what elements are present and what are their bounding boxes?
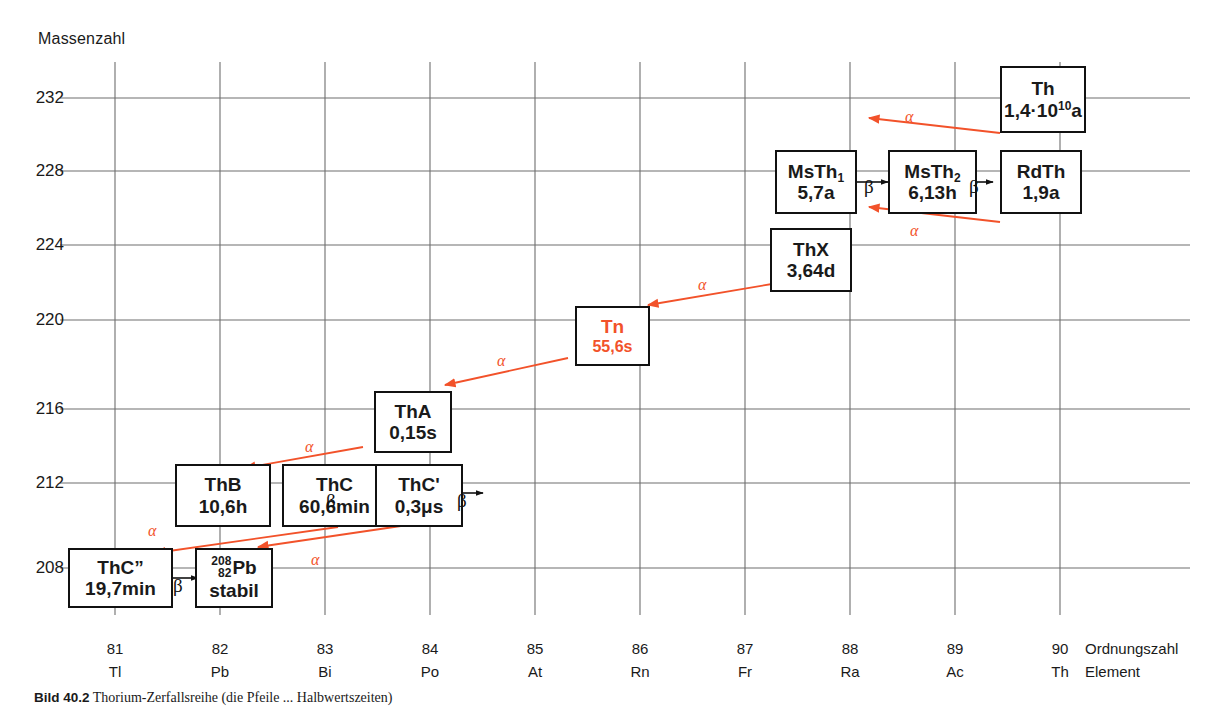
nuclide-halflife-thc-double-prime: 19,7min <box>85 578 156 599</box>
x-tick-element-at: At <box>505 663 565 680</box>
x-tick-element-fr: Fr <box>715 663 775 680</box>
x-tick-element-ra: Ra <box>820 663 880 680</box>
nuclide-halflife-tn: 55,6s <box>592 338 632 356</box>
nuclide-halflife-msth1: 5,7a <box>798 182 835 203</box>
y-tick-232: 232 <box>18 88 64 108</box>
figure-caption: Bild 40.2 Thorium-Zerfallsreihe (die Pfe… <box>34 690 393 706</box>
nuclide-name-thb: ThB <box>205 474 242 495</box>
nuclide-halflife-thb: 10,6h <box>199 496 248 517</box>
x-tick-element-th: Th <box>1030 663 1090 680</box>
nuclide-name-msth1: MsTh1 <box>788 161 844 182</box>
nuclide-name-thc-double-prime: ThC” <box>97 557 143 578</box>
nuclide-name-thc-prime: ThC' <box>398 474 439 495</box>
x-tick-number-84: 84 <box>400 640 460 657</box>
alpha-label-rdth-thx: α <box>910 222 918 240</box>
figure-number: Bild 40.2 <box>34 690 90 705</box>
nuclide-box-pb208[interactable]: 208 82 Pb stabil <box>195 548 273 608</box>
nuclide-box-rdth[interactable]: RdTh 1,9a <box>1000 150 1082 214</box>
nuclide-box-th[interactable]: Th 1,4·1010a <box>1000 66 1086 133</box>
x-tick-number-88: 88 <box>820 640 880 657</box>
nuclide-halflife-rdth: 1,9a <box>1023 182 1060 203</box>
nuclide-halflife-msth2: 6,13h <box>908 182 957 203</box>
alpha-label-th-msth1: α <box>905 108 913 126</box>
x-tick-element-ac: Ac <box>925 663 985 680</box>
beta-label-msth1-msth2: β <box>864 176 874 198</box>
x-tick-number-81: 81 <box>85 640 145 657</box>
x-tick-element-bi: Bi <box>295 663 355 680</box>
nuclide-halflife-pb: stabil <box>209 580 259 601</box>
beta-label-thcpp-pb: β <box>173 575 183 597</box>
x-tick-number-90: 90 <box>1030 640 1090 657</box>
nuclide-halflife-th: 1,4·1010a <box>1004 100 1082 121</box>
nuclide-name-th: Th <box>1031 78 1054 99</box>
beta-label-thc-thcprime: β <box>457 490 467 512</box>
nuclide-halflife-thx: 3,64d <box>787 260 836 281</box>
x-tick-element-rn: Rn <box>610 663 670 680</box>
alpha-label-tha-thb: α <box>305 438 313 456</box>
x-tick-element-pb: Pb <box>190 663 250 680</box>
alpha-label-thc-thcpp: α <box>148 522 156 540</box>
y-tick-220: 220 <box>18 310 64 330</box>
nuclide-box-thc-prime[interactable]: ThC' 0,3μs <box>375 464 463 527</box>
nuclide-box-msth2[interactable]: MsTh2 6,13h <box>888 150 977 214</box>
alpha-label-thx-tn: α <box>698 276 706 294</box>
nuclide-isotope-pb208: 208 82 Pb <box>211 555 256 579</box>
nuclide-name-msth2: MsTh2 <box>904 161 960 182</box>
x-tick-number-85: 85 <box>505 640 565 657</box>
y-tick-212: 212 <box>18 473 64 493</box>
decay-chain-diagram: Massenzahl 232 228 224 220 216 212 208 <box>0 0 1211 708</box>
nuclide-box-thc-double-prime[interactable]: ThC” 19,7min <box>68 548 173 608</box>
nuclide-name-thx: ThX <box>793 239 829 260</box>
x-tick-number-82: 82 <box>190 640 250 657</box>
nuclide-box-thb[interactable]: ThB 10,6h <box>175 464 271 527</box>
beta-label-thb-thc: β <box>326 490 336 512</box>
x-axis-caption-element: Element <box>1085 663 1140 680</box>
x-tick-number-87: 87 <box>715 640 775 657</box>
x-tick-number-86: 86 <box>610 640 670 657</box>
nuclide-halflife-thc-prime: 0,3μs <box>395 496 444 517</box>
nuclide-box-tha[interactable]: ThA 0,15s <box>374 391 452 453</box>
x-tick-element-po: Po <box>400 663 460 680</box>
nuclide-name-pb: Pb <box>232 557 256 578</box>
nuclide-halflife-tha: 0,15s <box>389 422 437 443</box>
nuclide-name-rdth: RdTh <box>1017 161 1066 182</box>
y-tick-216: 216 <box>18 399 64 419</box>
nuclide-box-tn[interactable]: Tn 55,6s <box>575 306 650 366</box>
nuclide-box-msth1[interactable]: MsTh1 5,7a <box>775 150 857 214</box>
alpha-label-tn-tha: α <box>497 352 505 370</box>
x-axis-caption-ordnungszahl: Ordnungszahl <box>1085 640 1178 657</box>
nuclide-name-tha: ThA <box>395 401 432 422</box>
figure-caption-text: Thorium-Zerfallsreihe (die Pfeile ... Ha… <box>93 690 393 705</box>
nuclide-box-thx[interactable]: ThX 3,64d <box>770 228 852 292</box>
pb-atomic-number: 82 <box>218 567 231 579</box>
y-tick-228: 228 <box>18 161 64 181</box>
beta-label-msth2-rdth: β <box>969 176 979 198</box>
x-tick-number-83: 83 <box>295 640 355 657</box>
y-tick-208: 208 <box>18 558 64 578</box>
x-tick-number-89: 89 <box>925 640 985 657</box>
x-tick-element-tl: Tl <box>85 663 145 680</box>
y-tick-224: 224 <box>18 235 64 255</box>
alpha-label-thcprime-pb: α <box>311 551 319 569</box>
nuclide-name-tn: Tn <box>601 316 624 337</box>
